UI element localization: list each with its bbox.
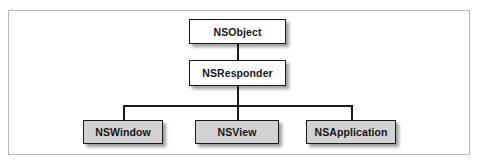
edge-nsobject-to-nsresponder (237, 44, 239, 60)
edge-bus-to-nsview (237, 105, 239, 120)
node-nsresponder[interactable]: NSResponder (189, 60, 286, 86)
edge-bus-to-nsapplication (351, 105, 353, 120)
node-nsresponder-label: NSResponder (202, 67, 273, 79)
node-nsapplication[interactable]: NSApplication (306, 120, 396, 144)
node-nswindow[interactable]: NSWindow (83, 120, 163, 144)
node-nsobject-label: NSObject (213, 26, 261, 38)
node-nsview-label: NSView (218, 126, 257, 138)
edge-bus-to-nswindow (123, 105, 125, 120)
edge-nsresponder-stem (237, 86, 239, 105)
diagram-canvas: NSObject NSResponder NSWindow NSView NSA… (0, 0, 482, 165)
node-nsobject[interactable]: NSObject (189, 19, 286, 44)
node-nswindow-label: NSWindow (95, 126, 151, 138)
diagram-frame: NSObject NSResponder NSWindow NSView NSA… (8, 10, 470, 155)
node-nsapplication-label: NSApplication (314, 126, 387, 138)
node-nsview[interactable]: NSView (195, 120, 279, 144)
